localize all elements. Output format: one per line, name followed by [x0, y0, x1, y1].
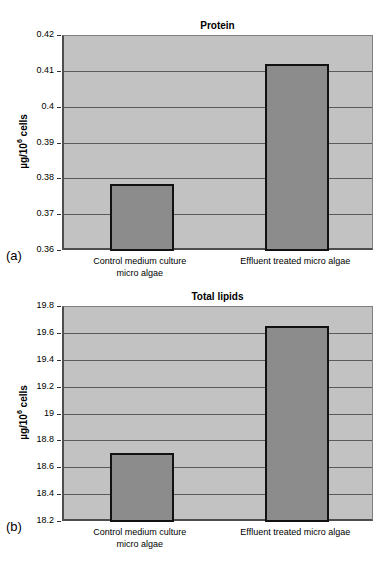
- x-axis-category-label: Effluent treated micro algae: [218, 526, 374, 538]
- y-axis-tick-label: 19.2: [6, 381, 54, 391]
- chart-title-protein: Protein: [62, 20, 373, 31]
- y-axis-tick-mark: [57, 143, 61, 144]
- y-axis-tick-mark: [57, 71, 61, 72]
- y-axis-tick-label: 0.36: [6, 244, 54, 254]
- y-axis-tick-label: 0.39: [6, 137, 54, 147]
- y-axis-tick-mark: [57, 521, 61, 522]
- figure-total-lipids: Total lipids µg/106 cells (b) 19.819.619…: [0, 281, 389, 561]
- x-axis-category-label: Effluent treated micro algae: [218, 255, 374, 267]
- y-axis-tick-mark: [57, 250, 61, 251]
- y-axis-tick-label: 18.2: [6, 515, 54, 525]
- y-axis-tick-label: 19.8: [6, 300, 54, 310]
- bar: [265, 326, 329, 522]
- plot-area-total-lipids: [62, 306, 373, 521]
- x-axis-category-label: Control medium culturemicro algae: [62, 526, 218, 550]
- y-axis-tick-label: 18.6: [6, 461, 54, 471]
- x-axis-category-label-line: Control medium culture: [62, 255, 218, 267]
- y-axis-tick-mark: [57, 440, 61, 441]
- plot-area-protein: [62, 35, 373, 250]
- bar: [110, 453, 174, 522]
- y-axis-tick-label: 19.6: [6, 327, 54, 337]
- y-axis-tick-label: 19: [6, 408, 54, 418]
- y-axis-tick-mark: [57, 107, 61, 108]
- bar: [110, 184, 174, 251]
- y-axis-tick-label: 0.42: [6, 29, 54, 39]
- y-axis-tick-mark: [57, 360, 61, 361]
- chart-title-total-lipids: Total lipids: [62, 291, 373, 302]
- y-axis-tick-label: 0.4: [6, 101, 54, 111]
- y-axis-tick-label: 18.4: [6, 488, 54, 498]
- figure-protein: Protein µg/106 cells (a) 0.420.410.40.39…: [0, 0, 389, 281]
- y-axis-tick-label: 0.41: [6, 65, 54, 75]
- y-axis-tick-label: 18.8: [6, 434, 54, 444]
- y-axis-tick-mark: [57, 333, 61, 334]
- y-axis-tick-mark: [57, 178, 61, 179]
- y-axis-tick-mark: [57, 467, 61, 468]
- y-axis-tick-label: 19.4: [6, 354, 54, 364]
- x-axis-category-label-line: Control medium culture: [62, 526, 218, 538]
- bar: [265, 64, 329, 251]
- x-axis-category-label-line: Effluent treated micro algae: [218, 255, 374, 267]
- y-axis-tick-mark: [57, 214, 61, 215]
- x-axis-category-label-line: Effluent treated micro algae: [218, 526, 374, 538]
- x-axis-category-label: Control medium culturemicro algae: [62, 255, 218, 279]
- y-axis-tick-mark: [57, 387, 61, 388]
- y-axis-tick-mark: [57, 35, 61, 36]
- x-axis-category-label-line: micro algae: [62, 267, 218, 279]
- y-axis-tick-label: 0.38: [6, 172, 54, 182]
- y-axis-tick-label: 0.37: [6, 208, 54, 218]
- y-axis-tick-mark: [57, 306, 61, 307]
- y-axis-tick-mark: [57, 494, 61, 495]
- y-axis-tick-mark: [57, 414, 61, 415]
- x-axis-category-label-line: micro algae: [62, 538, 218, 550]
